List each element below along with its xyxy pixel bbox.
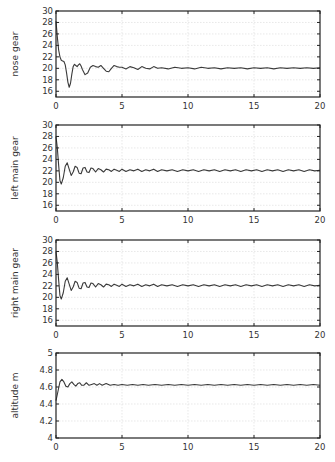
y-tick-label: 16	[42, 86, 53, 96]
x-tick-label: 10	[183, 215, 194, 225]
y-tick-label: 20	[42, 177, 53, 187]
y-tick-label: 30	[42, 120, 53, 130]
x-tick-label: 15	[249, 442, 260, 452]
y-tick-label: 4.6	[39, 382, 53, 392]
x-tick-label: 0	[53, 442, 58, 452]
figure: 051015201618202224262830nose gear0510152…	[0, 0, 335, 462]
y-tick-label: 4	[48, 433, 53, 443]
y-tick-label: 5	[48, 348, 53, 358]
y-tick-label: 24	[42, 40, 53, 50]
y-tick-label: 18	[42, 304, 53, 314]
y-tick-label: 26	[42, 143, 53, 153]
y-tick-label: 18	[42, 75, 53, 85]
x-tick-label: 5	[119, 442, 124, 452]
y-tick-label: 28	[42, 246, 53, 256]
x-tick-label: 10	[183, 101, 194, 111]
y-tick-label: 26	[42, 258, 53, 268]
y-tick-label: 20	[42, 63, 53, 73]
y-tick-label: 22	[42, 52, 53, 62]
y-tick-label: 20	[42, 292, 53, 302]
y-tick-label: 4.2	[39, 416, 53, 426]
x-tick-label: 10	[183, 442, 194, 452]
x-tick-label: 0	[53, 101, 58, 111]
y-tick-label: 28	[42, 131, 53, 141]
x-tick-label: 0	[53, 215, 58, 225]
y-tick-label: 30	[42, 6, 53, 16]
x-tick-label: 15	[249, 215, 260, 225]
x-tick-label: 10	[183, 330, 194, 340]
y-tick-label: 16	[42, 315, 53, 325]
x-tick-label: 20	[315, 330, 326, 340]
x-tick-label: 0	[53, 330, 58, 340]
y-tick-label: 16	[42, 200, 53, 210]
y-tick-label: 24	[42, 154, 53, 164]
y-tick-label: 22	[42, 281, 53, 291]
x-tick-label: 5	[119, 330, 124, 340]
y-tick-label: 24	[42, 269, 53, 279]
y-axis-label: right main gear	[10, 248, 20, 318]
y-tick-label: 28	[42, 17, 53, 27]
y-tick-label: 4.8	[39, 365, 53, 375]
y-axis-label: altitude m	[10, 372, 20, 418]
y-tick-label: 30	[42, 235, 53, 245]
y-tick-label: 18	[42, 189, 53, 199]
x-tick-label: 20	[315, 215, 326, 225]
x-tick-label: 20	[315, 101, 326, 111]
y-tick-label: 4.4	[39, 399, 53, 409]
y-axis-label: left main gear	[10, 136, 20, 200]
y-axis-label: nose gear	[10, 31, 20, 76]
x-tick-label: 5	[119, 215, 124, 225]
x-tick-label: 5	[119, 101, 124, 111]
y-tick-label: 22	[42, 166, 53, 176]
y-tick-label: 26	[42, 29, 53, 39]
x-tick-label: 20	[315, 442, 326, 452]
x-tick-label: 15	[249, 101, 260, 111]
x-tick-label: 15	[249, 330, 260, 340]
